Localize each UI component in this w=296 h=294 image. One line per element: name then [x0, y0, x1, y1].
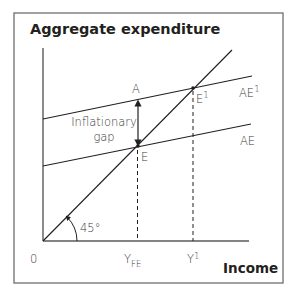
- ae-prime-label: AE1: [239, 84, 260, 100]
- ae-label: AE: [240, 134, 255, 148]
- yfe-label: YFE: [124, 252, 141, 269]
- origin-label: 0: [30, 252, 37, 266]
- forty-five-degree-label: 45°: [80, 221, 100, 235]
- y-axis-title: Aggregate expenditure: [30, 21, 220, 37]
- inflationary-gap-diagram: Aggregate expenditure 45° A E E1 AE1 AE …: [0, 0, 296, 294]
- point-e-label: E: [141, 150, 148, 164]
- point-e-prime-marker: [191, 86, 195, 90]
- inflationary-gap-label-line1: Inflationary: [71, 115, 137, 129]
- inflationary-gap-label-line2: gap: [93, 130, 114, 144]
- angle-arc: [67, 217, 77, 241]
- x-axis-title: Income: [223, 260, 278, 276]
- point-e-marker: [136, 144, 140, 148]
- point-a-label: A: [132, 82, 140, 96]
- point-e-prime-label: E1: [196, 90, 209, 106]
- y1-label: Y1: [187, 251, 199, 266]
- figure-frame: [14, 13, 283, 283]
- ae-prime-line: [43, 76, 252, 119]
